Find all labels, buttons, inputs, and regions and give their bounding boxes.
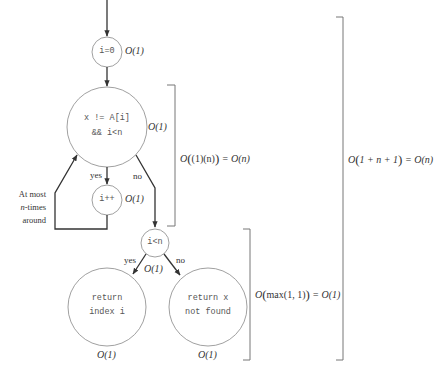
loop-bracket-formula: O((1)(n)) = O(n) [180, 150, 250, 166]
loop-check-code-line2: && i<n [67, 128, 147, 138]
final-yes-label: yes [124, 255, 136, 265]
return-not-found-code-line1: return x [173, 293, 243, 303]
init-node-code: i=0 [92, 46, 122, 56]
branch-bracket-formula: O(max(1, 1)) = O(1) [255, 286, 340, 302]
overall-bracket-formula: O(1 + n + 1) = O(n) [348, 151, 433, 167]
final-no-label: no [176, 255, 185, 265]
return-index-cost: O(1) [97, 349, 116, 360]
loop-no-arrow [136, 155, 155, 227]
return-not-found-code-line2: not found [173, 307, 243, 317]
increment-node-code: i++ [92, 194, 122, 204]
loop-note-line3: around [8, 214, 46, 227]
formula-result: O(n) [414, 154, 433, 165]
formula-inner: 1 + n + 1 [360, 154, 399, 165]
flowchart-canvas [0, 0, 441, 378]
branch-bracket [243, 229, 250, 360]
loop-yes-label: yes [90, 170, 102, 180]
formula-result: O(1) [322, 289, 341, 300]
formula-inner: (1)(n) [192, 153, 215, 164]
formula-inner: max(1, 1) [267, 289, 306, 300]
final-check-cost: O(1) [144, 263, 163, 274]
loop-note-line2-rest: -times [25, 202, 46, 212]
loop-note: At most n-times around [8, 188, 46, 227]
loop-check-code-line1: x != A[i] [67, 113, 147, 123]
overall-bracket [336, 17, 343, 360]
loop-check-node-circle [67, 87, 147, 167]
loop-bracket [167, 85, 175, 226]
loop-check-cost: O(1) [148, 121, 167, 132]
loop-no-label: no [133, 171, 142, 181]
loop-note-line1: At most [8, 188, 46, 201]
final-check-node-code: i<n [141, 237, 169, 247]
return-index-code-line2: index i [72, 307, 142, 317]
increment-node-cost: O(1) [125, 193, 144, 204]
return-not-found-cost: O(1) [198, 349, 217, 360]
formula-result: O(n) [231, 153, 250, 164]
init-node-cost: O(1) [125, 45, 144, 56]
return-index-code-line1: return [72, 293, 142, 303]
loop-note-line2: n-times [8, 201, 46, 214]
